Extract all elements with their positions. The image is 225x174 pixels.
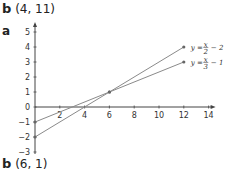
data-point [33,120,36,123]
svg-text:y =: y = [190,44,203,52]
x-axis-arrow-icon [211,105,216,109]
y-tick-label: 1 [25,88,30,97]
answer-b-bottom: b (6, 1) [2,156,47,171]
svg-text:2: 2 [203,48,209,56]
svg-text:− 1: − 1 [211,59,224,67]
series-label-1: y =x2− 2 [190,41,224,56]
series-label-2: y =x3− 1 [190,56,224,71]
y-tick-label: 2 [25,73,30,82]
y-tick-label: 3 [25,58,30,67]
x-tick-label: 8 [132,111,137,120]
data-point [108,90,111,93]
svg-text:3: 3 [204,63,209,71]
data-point [33,135,36,138]
line-chart: 543210−1−2−32468101214y =x2− 2y =x3− 1 [0,0,225,174]
y-tick-label: 5 [25,28,30,37]
svg-text:− 2: − 2 [211,44,224,52]
y-axis-arrow-icon [33,22,37,27]
x-tick-label: 14 [204,111,214,120]
y-tick-label: 0 [25,103,30,112]
y-tick-label: −1 [18,118,30,127]
answer-value: (6, 1) [15,157,47,171]
answer-letter: b [2,156,11,171]
svg-text:y =: y = [190,59,203,67]
x-tick-label: 10 [154,111,164,120]
y-tick-label: −2 [18,133,30,142]
x-tick-label: 6 [107,111,112,120]
x-tick-label: 4 [82,111,87,120]
data-point [182,60,185,63]
data-point [182,45,185,48]
y-tick-label: 4 [25,43,30,52]
x-tick-label: 12 [179,111,189,120]
